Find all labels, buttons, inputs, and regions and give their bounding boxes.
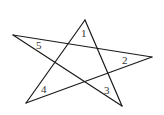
- pentagram-diagram: 1 2 3 4 5: [0, 0, 164, 115]
- edge-top-bottom-left: [26, 20, 85, 103]
- edge-bottom-left-right: [26, 57, 152, 103]
- label-2: 2: [122, 54, 128, 66]
- label-5: 5: [36, 39, 42, 51]
- label-3: 3: [104, 84, 110, 96]
- label-1: 1: [81, 27, 87, 39]
- label-4: 4: [41, 83, 47, 95]
